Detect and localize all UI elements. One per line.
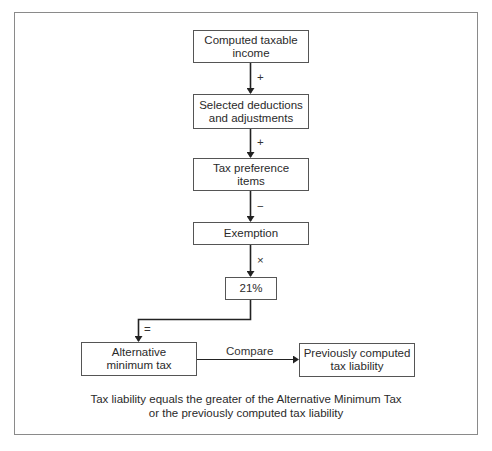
- node-label: Selected deductions: [199, 99, 303, 111]
- node-computed-taxable-income: Computed taxable income: [193, 30, 309, 63]
- node-label: Previously computed: [304, 347, 411, 359]
- caption-line-1: Tax liability equals the greater of the …: [90, 393, 401, 405]
- node-label: tax liability: [330, 360, 383, 372]
- edge-label-minus: −: [257, 200, 264, 212]
- node-label: income: [232, 47, 269, 59]
- node-label: Exemption: [224, 227, 278, 240]
- edge-label-plus-2: +: [257, 136, 264, 148]
- node-label: and adjustments: [209, 112, 293, 124]
- node-selected-deductions: Selected deductions and adjustments: [193, 94, 309, 129]
- edge-label-plus-1: +: [257, 71, 264, 83]
- node-exemption: Exemption: [193, 222, 309, 245]
- node-alternative-minimum-tax: Alternative minimum tax: [81, 342, 197, 376]
- edge-label-compare: Compare: [226, 345, 273, 357]
- node-label: minimum tax: [106, 359, 171, 371]
- edge-label-equals: =: [144, 323, 151, 335]
- node-previously-computed-tax-liability: Previously computed tax liability: [299, 343, 415, 377]
- node-label: Alternative: [112, 346, 166, 358]
- node-label: 21%: [239, 282, 262, 295]
- node-rate: 21%: [225, 277, 277, 300]
- diagram-caption: Tax liability equals the greater of the …: [14, 392, 478, 420]
- node-label: items: [237, 175, 264, 187]
- node-tax-preference-items: Tax preference items: [193, 158, 309, 191]
- node-label: Tax preference: [213, 162, 289, 174]
- edge-label-times: ×: [257, 254, 264, 266]
- caption-line-2: or the previously computed tax liability: [149, 407, 343, 419]
- node-label: Computed taxable: [204, 34, 297, 46]
